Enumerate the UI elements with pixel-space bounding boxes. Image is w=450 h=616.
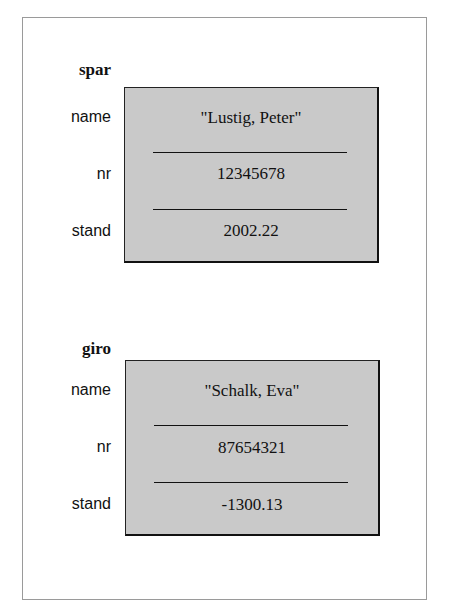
field-value-stand: 2002.22: [125, 221, 377, 241]
field-label-nr: nr: [21, 165, 111, 183]
field-label-stand: stand: [21, 222, 111, 240]
field-label-name: name: [21, 381, 111, 399]
field-divider: [154, 482, 348, 483]
field-value-name: "Schalk, Eva": [126, 381, 378, 401]
object-name-spar: spar: [51, 60, 111, 80]
object-box-spar: "Lustig, Peter" 12345678 2002.22: [124, 87, 379, 263]
field-divider: [154, 425, 348, 426]
field-value-stand: -1300.13: [126, 495, 378, 515]
field-value-nr: 12345678: [125, 164, 377, 184]
object-name-giro: giro: [51, 339, 111, 359]
field-divider: [153, 152, 347, 153]
field-label-stand: stand: [21, 495, 111, 513]
field-label-nr: nr: [21, 438, 111, 456]
field-value-nr: 87654321: [126, 438, 378, 458]
object-box-giro: "Schalk, Eva" 87654321 -1300.13: [125, 360, 380, 536]
field-value-name: "Lustig, Peter": [125, 108, 377, 128]
field-divider: [153, 209, 347, 210]
field-label-name: name: [21, 108, 111, 126]
